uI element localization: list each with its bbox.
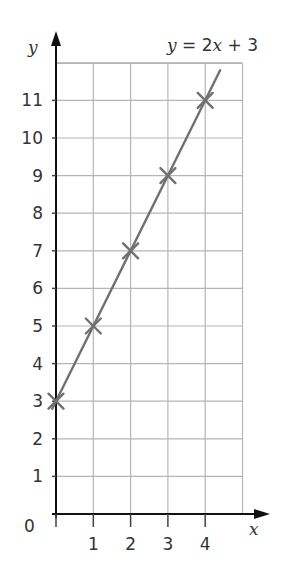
x-tick-label: 1: [88, 534, 99, 554]
x-axis-label: x: [249, 519, 259, 539]
equation-label: y = 2x + 3: [166, 35, 258, 55]
origin-label: 0: [24, 516, 35, 536]
y-axis-label: y: [27, 37, 38, 57]
tick-labels: 12341234567891011: [21, 90, 210, 554]
axes: [51, 31, 270, 527]
x-tick-label: 2: [125, 534, 136, 554]
x-tick-label: 3: [162, 534, 173, 554]
y-tick-label: 7: [32, 241, 43, 261]
x-axis-arrow-icon: [254, 509, 270, 519]
y-tick-label: 6: [32, 278, 43, 298]
y-tick-label: 10: [21, 128, 43, 148]
y-tick-label: 9: [32, 166, 43, 186]
grid-lines: [56, 63, 243, 514]
y-tick-label: 3: [32, 391, 43, 411]
series-line: [52, 70, 220, 408]
y-axis-arrow-icon: [51, 31, 61, 46]
y-tick-label: 5: [32, 316, 43, 336]
y-tick-label: 4: [32, 354, 43, 374]
y-tick-label: 1: [32, 466, 43, 486]
y-tick-label: 8: [32, 203, 43, 223]
data-series: [49, 70, 221, 408]
x-tick-label: 4: [200, 534, 211, 554]
linear-graph: 12341234567891011 y x 0 y = 2x + 3: [0, 0, 289, 581]
y-tick-label: 2: [32, 429, 43, 449]
y-tick-label: 11: [21, 90, 43, 110]
